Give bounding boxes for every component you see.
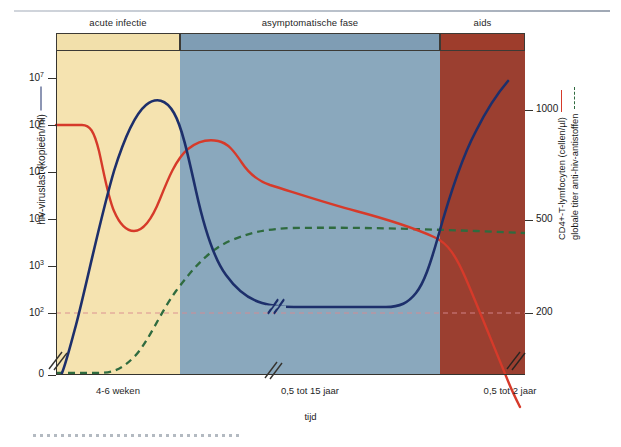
y-label-right-200: 200 xyxy=(536,306,553,317)
y-label-left-1e2: 102 xyxy=(29,306,44,318)
bottom-dotted-rule xyxy=(33,434,241,437)
y-tick-right-500 xyxy=(525,220,533,221)
y-label-right-500: 500 xyxy=(536,213,553,224)
hiv-course-figure: acute infectie asymptomatische fase aids xyxy=(0,0,621,447)
y-tick-left-1e7 xyxy=(48,78,56,79)
y-label-right-1000: 1000 xyxy=(536,103,558,114)
y-label-left-0: 0 xyxy=(38,368,44,379)
phase-band-acute xyxy=(56,33,180,51)
phase-label-asymptomatic: asymptomatische fase xyxy=(180,17,440,28)
phase-band-asymptomatic xyxy=(180,33,440,51)
y-tick-left-1e3 xyxy=(48,266,56,267)
antibody-titre-curve xyxy=(56,228,525,373)
x-label-aids-duration: 0,5 tot 2 jaar xyxy=(440,385,580,396)
y-axis-title-left: hiv-viruslast (kopieën/ml) xyxy=(36,51,47,261)
x-axis-title: tijd xyxy=(0,411,621,422)
plot-area xyxy=(56,51,525,375)
phase-label-aids: aids xyxy=(440,17,525,28)
y-axis-title-right: CD4+-T-lymfocyten (cellen/µl) globale ti… xyxy=(556,20,582,240)
legend-swatch-viral-load xyxy=(41,86,42,110)
cd4-lymphocyte-curve xyxy=(56,125,520,407)
y-tick-left-1e2 xyxy=(48,313,56,314)
x-label-asymptomatic-duration: 0,5 tot 15 jaar xyxy=(180,385,440,396)
legend-swatch-cd4 xyxy=(561,90,562,112)
curves-svg xyxy=(56,51,525,375)
legend-entry-cd4: CD4+-T-lymfocyten (cellen/µl) xyxy=(556,20,569,240)
y-tick-left-0 xyxy=(48,375,56,376)
viral-load-curve xyxy=(62,81,508,373)
y-tick-left-1e4 xyxy=(48,219,56,220)
legend-entry-antibodies: globale titer anti-hiv-antistoffen xyxy=(569,20,582,240)
x-label-acute-duration: 4-6 weken xyxy=(56,385,180,396)
top-rule xyxy=(14,10,610,12)
y-tick-right-1000 xyxy=(525,110,533,111)
y-tick-left-1e5 xyxy=(48,172,56,173)
y-tick-right-200 xyxy=(525,313,533,314)
y-tick-left-1e6 xyxy=(48,125,56,126)
y-label-left-1e3: 103 xyxy=(29,259,44,271)
phase-label-acute: acute infectie xyxy=(56,17,180,28)
legend-swatch-antibodies xyxy=(574,87,575,109)
phase-band-aids xyxy=(440,33,525,51)
